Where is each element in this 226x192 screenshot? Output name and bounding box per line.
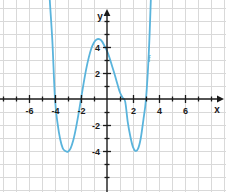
y-axis-label: y: [97, 11, 103, 22]
x-tick-label--6: -6: [25, 106, 33, 116]
plot-svg: -6 -4 -2 2 4 6 4 2 -2 -4 x y f: [0, 0, 226, 192]
x-tick-label-2: 2: [131, 106, 136, 116]
x-tick-label-6: 6: [183, 106, 188, 116]
x-tick-label--2: -2: [77, 106, 85, 116]
coordinate-plot: -6 -4 -2 2 4 6 4 2 -2 -4 x y f: [0, 0, 226, 192]
x-axis-label: x: [214, 104, 220, 115]
figure-root: gleichung:: [0, 0, 226, 192]
plot-background: [0, 0, 226, 192]
y-tick-label--2: -2: [92, 121, 100, 131]
y-tick-label--4: -4: [92, 147, 100, 157]
x-tick-label--4: -4: [51, 106, 59, 116]
y-tick-label-2: 2: [95, 69, 100, 79]
y-tick-label-4: 4: [95, 43, 100, 53]
x-tick-label-4: 4: [157, 106, 162, 116]
